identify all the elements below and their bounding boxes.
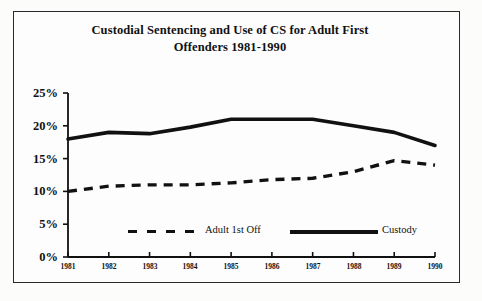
legend-dash-segment-3 [166,230,175,233]
x-tick-label-1987: 1987 [293,262,333,271]
y-tick-label-5: 5% [22,217,58,232]
x-tick-label-1988: 1988 [334,262,374,271]
x-tick-label-1989: 1989 [374,262,414,271]
legend-label-custody: Custody [382,224,417,235]
y-tick-label-25: 25% [22,86,58,101]
chart-title: Custodial Sentencing and Use of CS for A… [40,22,420,56]
y-tick-label-10: 10% [22,184,58,199]
y-tick-label-20: 20% [22,119,58,134]
legend-dash-segment-4 [185,230,194,233]
x-tick-label-1990: 1990 [415,262,455,271]
legend-dash-segment-2 [147,230,156,233]
x-tick-label-1983: 1983 [130,262,170,271]
chart-page: Custodial Sentencing and Use of CS for A… [0,0,482,301]
x-tick-label-1982: 1982 [89,262,129,271]
x-tick-label-1986: 1986 [252,262,292,271]
x-tick-label-1984: 1984 [170,262,210,271]
chart-title-line-2: Offenders 1981-1990 [40,39,420,56]
legend-dash-segment-1 [128,230,137,233]
legend-solid-line-custody [290,230,378,234]
y-tick-label-15: 15% [22,152,58,167]
legend-label-adult-1st-off: Adult 1st Off [205,224,261,235]
x-tick-label-1981: 1981 [48,262,88,271]
chart-title-line-1: Custodial Sentencing and Use of CS for A… [40,22,420,39]
x-tick-label-1985: 1985 [211,262,251,271]
